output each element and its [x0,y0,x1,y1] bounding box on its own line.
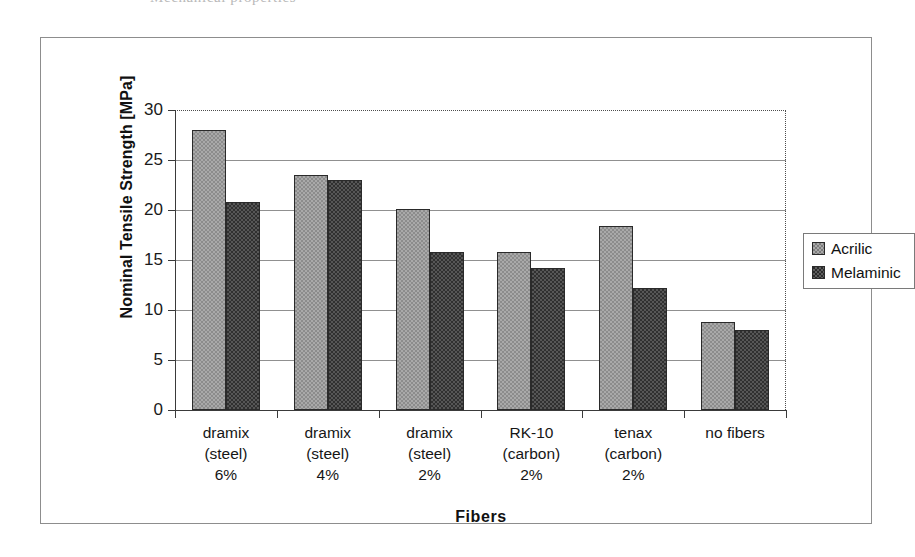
category-label-4: tenax(carbon)2% [582,422,684,485]
bar-acrilic-5 [701,322,735,410]
scan-remnant-text: Mechanical properties [150,0,296,6]
bar-acrilic-2 [396,209,430,410]
legend-label: Melaminic [831,265,901,281]
category-label-line: (carbon) [582,443,684,464]
category-label-0: dramix(steel)6% [175,422,277,485]
gridline-10 [175,310,786,311]
legend-swatch-icon-melaminic [812,266,825,279]
category-label-5: no fibers [684,422,786,443]
category-label-line: dramix [379,422,481,443]
bar-melaminic-4 [633,288,667,410]
category-label-line: 4% [277,464,379,485]
plot-area [175,110,786,410]
legend-label: Acrilic [831,241,872,257]
bar-melaminic-5 [735,330,769,410]
gridline-5 [175,360,786,361]
bar-acrilic-1 [294,175,328,410]
y-tick-label-30: 30 [119,101,163,118]
y-tick-label-25: 25 [119,151,163,168]
category-label-line: (carbon) [481,443,583,464]
x-tick-mark-0 [175,410,176,418]
y-tick-mark-15 [168,260,176,261]
x-tick-mark-1 [277,410,278,418]
x-tick-mark-5 [684,410,685,418]
category-label-line: 2% [379,464,481,485]
y-tick-mark-25 [168,160,176,161]
category-label-line: RK-10 [481,422,583,443]
bar-melaminic-1 [328,180,362,410]
x-tick-mark-4 [582,410,583,418]
category-label-3: RK-10(carbon)2% [481,422,583,485]
x-tick-mark-3 [481,410,482,418]
legend-item-melaminic[interactable]: Melaminic [812,265,906,281]
y-tick-mark-30 [168,110,176,111]
category-label-line: (steel) [379,443,481,464]
category-label-line: dramix [277,422,379,443]
category-label-line: 2% [481,464,583,485]
x-tick-mark-6 [786,410,787,418]
bar-acrilic-3 [497,252,531,410]
legend-swatch-icon-acrilic [812,242,825,255]
category-label-line: 6% [175,464,277,485]
x-tick-mark-2 [379,410,380,418]
y-tick-mark-5 [168,360,176,361]
bar-melaminic-3 [531,268,565,410]
chart-figure-frame: Nominal Tensile Strength [MPa] 051015202… [40,37,872,524]
category-label-line: (steel) [175,443,277,464]
y-tick-label-15: 15 [119,251,163,268]
category-label-line: (steel) [277,443,379,464]
bar-acrilic-4 [599,226,633,410]
category-label-line: 2% [582,464,684,485]
category-label-1: dramix(steel)4% [277,422,379,485]
y-tick-label-5: 5 [119,351,163,368]
category-label-line: dramix [175,422,277,443]
y-tick-label-20: 20 [119,201,163,218]
bar-melaminic-0 [226,202,260,410]
legend-item-acrilic[interactable]: Acrilic [812,241,906,257]
plot-top-border [175,110,786,111]
gridline-15 [175,260,786,261]
bar-melaminic-2 [430,252,464,410]
scan-top-text-remnant: Mechanical properties [0,0,904,14]
x-axis-title: Fibers [175,508,787,526]
y-tick-mark-10 [168,310,176,311]
category-label-line: tenax [582,422,684,443]
chart-legend: AcrilicMelaminic [803,233,915,289]
bar-acrilic-0 [192,130,226,410]
category-label-2: dramix(steel)2% [379,422,481,485]
gridline-25 [175,160,786,161]
category-label-line: no fibers [684,422,786,443]
gridline-20 [175,210,786,211]
y-tick-label-10: 10 [119,301,163,318]
y-tick-label-0: 0 [119,401,163,418]
y-tick-mark-20 [168,210,176,211]
